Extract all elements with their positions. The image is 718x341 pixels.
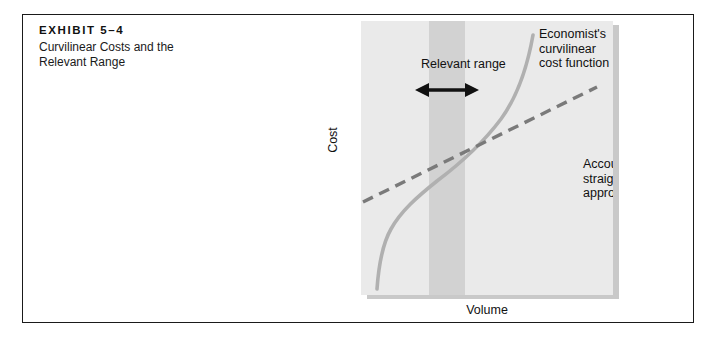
caption-block: EXHIBIT 5–4 Curvilinear Costs and the Re… xyxy=(39,23,269,69)
relevant-range-arrow-icon xyxy=(415,83,479,97)
economist-curve xyxy=(377,35,533,289)
exhibit-number: EXHIBIT 5–4 xyxy=(39,23,269,38)
y-axis-title: Cost xyxy=(326,120,340,160)
relevant-range-label-line-1: Relevant xyxy=(421,57,470,71)
exhibit-title-line-1: Curvilinear Costs and the xyxy=(39,40,269,55)
accountant-line xyxy=(363,87,597,202)
x-axis-title: Volume xyxy=(361,303,613,317)
plot-area: Relevant range Economist's curvilinear c… xyxy=(361,21,613,295)
relevant-range-label: Relevant range xyxy=(421,57,473,72)
exhibit-title: Curvilinear Costs and the Relevant Range xyxy=(39,40,269,69)
chart-region: Relevant range Economist's curvilinear c… xyxy=(305,15,695,324)
exhibit-title-line-2: Relevant Range xyxy=(39,55,269,70)
exhibit-frame: EXHIBIT 5–4 Curvilinear Costs and the Re… xyxy=(22,14,694,323)
relevant-range-label-line-2: range xyxy=(474,57,506,71)
